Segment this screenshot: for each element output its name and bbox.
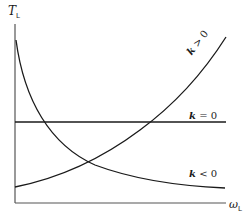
label-k-negative: k < 0 [189,168,217,179]
x-axis-label: ωL [229,198,242,213]
label-k-zero: k = 0 [189,110,217,121]
y-axis-label: TL [8,4,20,20]
